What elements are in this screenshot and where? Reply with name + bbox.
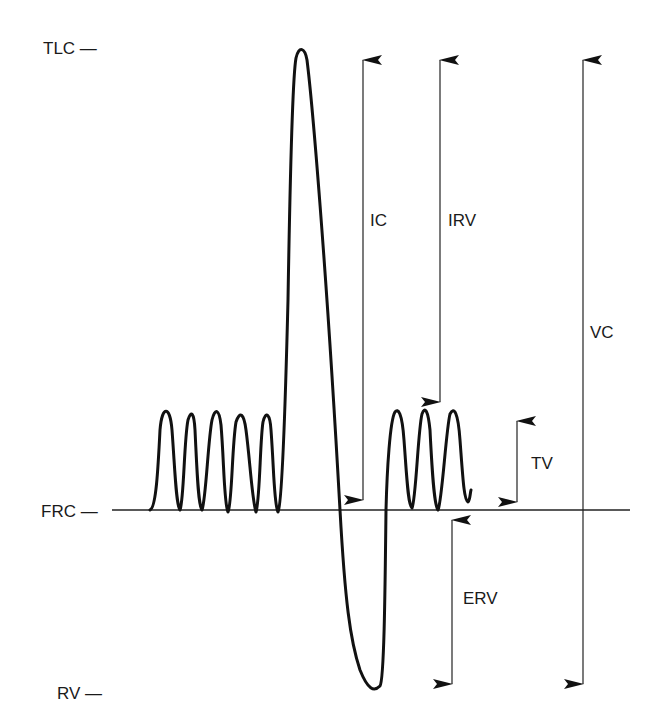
tlc-label: TLC —	[43, 40, 97, 57]
ic-label: IC	[370, 212, 387, 229]
spirogram-canvas	[0, 0, 654, 726]
frc-label: FRC —	[41, 503, 98, 520]
vc-label: VC	[590, 324, 614, 341]
irv-label: IRV	[448, 212, 476, 229]
tv-label: TV	[531, 455, 553, 472]
erv-label: ERV	[463, 590, 498, 607]
spirogram-trace	[150, 50, 471, 689]
rv-label: RV —	[57, 685, 102, 702]
